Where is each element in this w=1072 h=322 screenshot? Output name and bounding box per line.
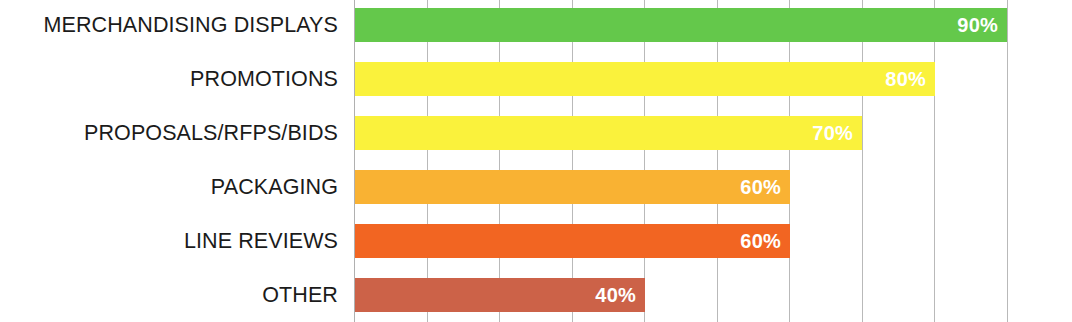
bar-series: 90% 80% 70% 60% 60% 40% bbox=[354, 0, 1072, 322]
bar-promotions: 80% bbox=[355, 62, 935, 96]
category-label: LINE REVIEWS bbox=[184, 224, 338, 258]
category-label: PROPOSALS/RFPS/BIDS bbox=[84, 116, 338, 150]
category-label: PACKAGING bbox=[211, 170, 338, 204]
category-label: OTHER bbox=[262, 278, 338, 312]
bar-value-label: 60% bbox=[740, 177, 790, 197]
bar-value-label: 80% bbox=[885, 69, 935, 89]
bar-packaging: 60% bbox=[355, 170, 790, 204]
bar-other: 40% bbox=[355, 278, 645, 312]
bar-value-label: 40% bbox=[595, 285, 645, 305]
bar-merchandising-displays: 90% bbox=[355, 8, 1007, 42]
bar-proposals-rfps-bids: 70% bbox=[355, 116, 862, 150]
bar-value-label: 70% bbox=[812, 123, 862, 143]
bar-value-label: 90% bbox=[957, 15, 1007, 35]
bar-line-reviews: 60% bbox=[355, 224, 790, 258]
plot-area: 90% 80% 70% 60% 60% 40% bbox=[354, 0, 1072, 322]
category-label: MERCHANDISING DISPLAYS bbox=[44, 8, 339, 42]
category-label-column: MERCHANDISING DISPLAYS PROMOTIONS PROPOS… bbox=[0, 0, 346, 322]
category-label: PROMOTIONS bbox=[190, 62, 338, 96]
bar-value-label: 60% bbox=[740, 231, 790, 251]
horizontal-bar-chart: MERCHANDISING DISPLAYS PROMOTIONS PROPOS… bbox=[0, 0, 1072, 322]
